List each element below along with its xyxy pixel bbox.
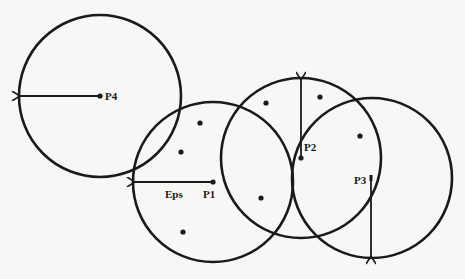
neighborhood-p4: P4 [19,15,181,177]
point-p1 [210,179,215,184]
eps-label: Eps [165,188,183,200]
dbscan-diagram: P4 Eps P1 P2 P3 [0,0,465,279]
data-point [258,195,263,200]
point-p2 [298,155,303,160]
data-point [197,120,202,125]
data-point [180,229,185,234]
point-p3 [370,175,373,181]
data-points [178,94,362,234]
data-point [357,133,362,138]
label-p4: P4 [105,90,118,102]
data-point [263,100,268,105]
data-point [178,149,183,154]
point-p4 [97,93,102,98]
data-point [317,94,322,99]
label-p1: P1 [203,188,215,200]
neighborhood-p1: Eps P1 [133,102,293,262]
label-p2: P2 [304,141,317,153]
label-p3: P3 [354,174,367,186]
